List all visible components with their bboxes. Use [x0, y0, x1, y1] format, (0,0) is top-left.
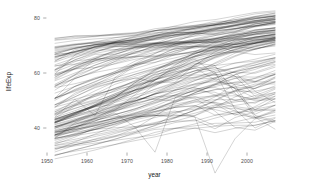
- x-tick-label: 1960: [81, 158, 93, 164]
- y-tick-label: 60: [24, 70, 40, 76]
- y-axis-tick-marks: [43, 18, 46, 128]
- x-tick-label: 1970: [121, 158, 133, 164]
- x-tick-label: 1950: [41, 158, 53, 164]
- x-tick-label: 1990: [201, 158, 213, 164]
- x-tick-label: 1980: [161, 158, 173, 164]
- x-tick-label: 2000: [241, 158, 253, 164]
- life-expectancy-spaghetti-chart: 406080 195019601970198019902000 lifeExp …: [0, 0, 309, 187]
- y-tick-label: 80: [24, 15, 40, 21]
- series-lines-layer: [55, 11, 275, 173]
- y-axis-title: lifeExp: [5, 62, 12, 102]
- x-axis-title: year: [0, 171, 309, 178]
- y-tick-label: 40: [24, 125, 40, 131]
